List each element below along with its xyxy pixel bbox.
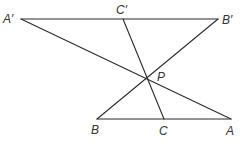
label-b-prime: B′ [222, 13, 233, 27]
label-a-prime: A′ [2, 12, 14, 26]
label-a: A [225, 124, 234, 138]
label-c: C [159, 124, 168, 138]
label-c-prime: C′ [116, 3, 128, 17]
label-b: B [91, 123, 99, 137]
geometry-diagram: A′ C′ B′ P B C A [0, 0, 246, 145]
label-p: P [157, 70, 165, 84]
